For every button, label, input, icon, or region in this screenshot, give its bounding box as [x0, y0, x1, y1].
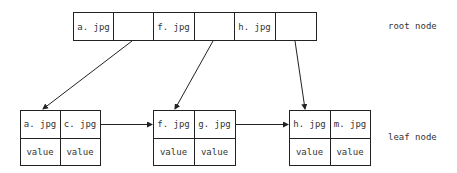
leaf3-value-1: value — [330, 138, 370, 165]
leaf1-value-1: value — [60, 138, 100, 165]
root-key-4: h. jpg — [234, 12, 275, 41]
leaf3-key-0: h. jpg — [289, 110, 330, 138]
leaf3-key-1: m. jpg — [330, 110, 370, 138]
root-key-2: f. jpg — [153, 12, 194, 41]
pointer-arrow-3 — [295, 41, 305, 109]
pointer-arrow-1 — [43, 41, 132, 109]
pointer-arrow-2 — [175, 41, 213, 109]
leaf3-value-0: value — [289, 138, 330, 165]
root-node-label: root node — [388, 21, 437, 31]
leaf1-key-1: c. jpg — [60, 110, 100, 138]
leaf2-value-1: value — [194, 138, 235, 165]
leaf2-key-0: f. jpg — [153, 110, 194, 138]
leaf2-key-1: g. jpg — [194, 110, 235, 138]
leaf-node-label: leaf node — [388, 132, 437, 142]
leaf2-value-0: value — [153, 138, 194, 165]
leaf1-key-0: a. jpg — [20, 110, 60, 138]
leaf1-value-0: value — [20, 138, 60, 165]
root-key-0: a. jpg — [73, 12, 114, 41]
